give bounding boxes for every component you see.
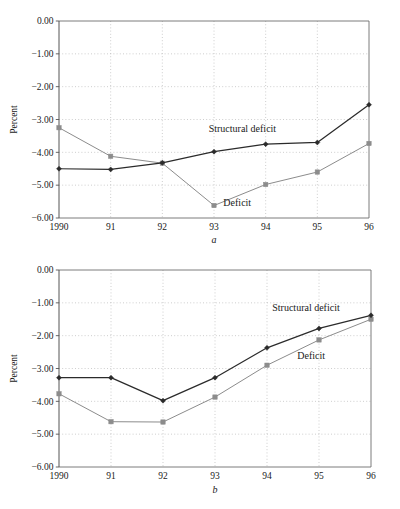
series-annotation-structural-deficit: Structural deficit xyxy=(272,302,340,313)
panel-caption: b xyxy=(213,484,218,495)
data-point-marker xyxy=(57,375,62,380)
x-axis-tick-label: 94 xyxy=(261,222,271,232)
figure-page: 0.00−1.00−2.00−3.00−4.00−5.00−6.00199091… xyxy=(0,0,400,509)
y-axis-tick-label: 0.00 xyxy=(37,16,54,26)
data-point-marker xyxy=(108,154,112,158)
x-axis-tick-label: 95 xyxy=(313,222,323,232)
chart-b-canvas: 0.00−1.00−2.00−3.00−4.00−5.00−6.00199091… xyxy=(0,255,400,509)
data-point-marker xyxy=(109,375,114,380)
x-axis-tick-label: 93 xyxy=(209,222,219,232)
data-point-marker xyxy=(263,142,268,147)
data-point-marker xyxy=(108,167,113,172)
data-point-marker xyxy=(317,338,321,342)
x-axis-tick-label: 91 xyxy=(106,471,116,481)
y-axis-tick-label: −4.00 xyxy=(32,397,54,407)
x-axis-tick-label: 95 xyxy=(314,471,324,481)
y-axis-tick-label: 0.00 xyxy=(37,265,54,275)
y-axis-tick-label: −4.00 xyxy=(32,148,54,158)
x-axis-tick-label: 91 xyxy=(106,222,116,232)
chart-a-canvas: 0.00−1.00−2.00−3.00−4.00−5.00−6.00199091… xyxy=(0,0,400,255)
x-axis-tick-label: 92 xyxy=(158,222,168,232)
data-point-marker xyxy=(57,126,61,130)
x-axis-tick-label: 94 xyxy=(262,471,272,481)
series-annotation-structural-deficit: Structural deficit xyxy=(209,123,277,134)
data-point-marker xyxy=(317,326,322,331)
data-point-marker xyxy=(265,345,270,350)
data-point-marker xyxy=(315,170,319,174)
y-axis-tick-label: −3.00 xyxy=(32,115,54,125)
chart-panel-b: 0.00−1.00−2.00−3.00−4.00−5.00−6.00199091… xyxy=(0,255,400,509)
data-point-marker xyxy=(161,398,166,403)
data-point-marker xyxy=(213,375,218,380)
x-axis-tick-label: 93 xyxy=(210,471,220,481)
data-point-marker xyxy=(212,149,217,154)
y-axis-title: Percent xyxy=(9,354,19,383)
y-axis-tick-label: −5.00 xyxy=(32,180,54,190)
data-point-marker xyxy=(263,182,267,186)
data-point-marker xyxy=(109,419,113,423)
x-axis-tick-label: 1990 xyxy=(50,471,69,481)
x-axis-tick-label: 1990 xyxy=(50,222,69,232)
y-axis-tick-label: −2.00 xyxy=(32,82,54,92)
series-annotation-deficit: Deficit xyxy=(297,350,325,361)
data-point-marker xyxy=(367,141,371,145)
y-axis-tick-label: −1.00 xyxy=(32,49,54,59)
chart-panel-a: 0.00−1.00−2.00−3.00−4.00−5.00−6.00199091… xyxy=(0,0,400,255)
data-point-marker xyxy=(57,392,61,396)
y-axis-tick-label: −2.00 xyxy=(32,331,54,341)
x-axis-tick-label: 96 xyxy=(366,471,376,481)
data-point-marker xyxy=(57,166,62,171)
data-point-marker xyxy=(265,363,269,367)
data-point-marker xyxy=(161,420,165,424)
panel-caption: a xyxy=(212,234,217,245)
x-axis-tick-label: 92 xyxy=(158,471,168,481)
series-annotation-deficit: Deficit xyxy=(223,197,251,208)
y-axis-title: Percent xyxy=(9,105,19,134)
y-axis-tick-label: −3.00 xyxy=(32,364,54,374)
data-point-marker xyxy=(212,203,216,207)
x-axis-tick-label: 96 xyxy=(364,222,374,232)
data-point-marker xyxy=(213,395,217,399)
y-axis-tick-label: −1.00 xyxy=(32,298,54,308)
y-axis-tick-label: −5.00 xyxy=(32,429,54,439)
